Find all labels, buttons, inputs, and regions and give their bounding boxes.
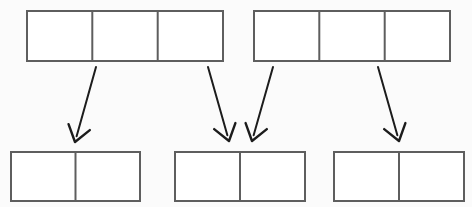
top-row-group — [27, 11, 450, 61]
arrow-2-shaft — [208, 67, 227, 135]
top-bar-right — [254, 11, 450, 61]
top-bar-right-outline — [254, 11, 450, 61]
arrow-4-shaft — [378, 67, 397, 135]
bottom-bar-left — [11, 152, 140, 201]
arrows-group — [69, 67, 406, 142]
arrow-1-shaft — [77, 67, 96, 136]
top-bar-left — [27, 11, 223, 61]
arrow-3-shaft — [254, 67, 273, 135]
arrow-4 — [378, 67, 405, 141]
top-bar-left-outline — [27, 11, 223, 61]
bottom-row-group — [11, 152, 464, 201]
arrow-2 — [208, 67, 235, 141]
arrow-3 — [246, 67, 273, 141]
arrow-1 — [69, 67, 96, 142]
bottom-bar-middle — [175, 152, 305, 201]
diagram-canvas — [0, 0, 472, 207]
tape-diagram — [0, 0, 472, 207]
bottom-bar-right — [334, 152, 464, 201]
